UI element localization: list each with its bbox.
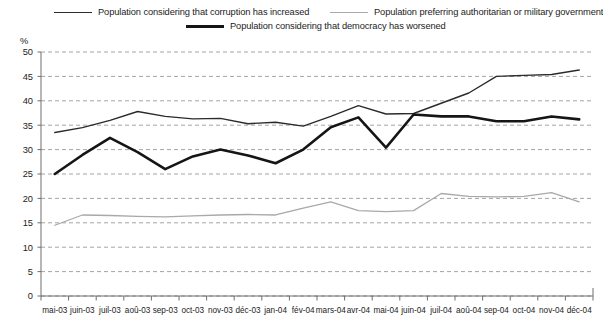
x-tick-label: juil-03 bbox=[98, 306, 121, 315]
y-tick-label: 20 bbox=[23, 194, 33, 204]
series-line-democracy bbox=[55, 114, 579, 174]
x-tick-label: mai-03 bbox=[42, 306, 67, 315]
x-tick-label: mai-04 bbox=[373, 306, 398, 315]
x-tick-label: aoû-04 bbox=[456, 306, 482, 315]
x-tick-label: jan-04 bbox=[263, 306, 287, 315]
x-tick-label: sep-04 bbox=[484, 306, 509, 315]
x-tick-label: nov-04 bbox=[539, 306, 564, 315]
x-tick-label: juil-04 bbox=[429, 306, 452, 315]
y-tick-label: 40 bbox=[23, 96, 33, 106]
x-tick-label: oct-04 bbox=[513, 306, 536, 315]
x-tick-label: fév-04 bbox=[292, 306, 315, 315]
x-tick-label: déc-03 bbox=[235, 306, 260, 315]
x-axis-group bbox=[41, 288, 593, 301]
x-tick-label: oct-03 bbox=[181, 306, 204, 315]
y-tick-label: 45 bbox=[23, 72, 33, 82]
x-tick-label: sep-03 bbox=[153, 306, 178, 315]
series-line-authoritarian bbox=[55, 193, 579, 226]
x-tick-label: juin-04 bbox=[400, 306, 426, 315]
series-line-corruption bbox=[55, 70, 579, 132]
x-tick-label: avr-04 bbox=[347, 306, 371, 315]
y-axis-group bbox=[38, 52, 42, 296]
x-tick-label: juin-03 bbox=[69, 306, 95, 315]
y-tick-label: 35 bbox=[23, 121, 33, 131]
x-tick-label: déc-04 bbox=[567, 306, 592, 315]
x-tick-label: mars-04 bbox=[316, 306, 346, 315]
y-tick-label: 50 bbox=[23, 47, 33, 57]
y-tick-label: 5 bbox=[28, 267, 33, 277]
gridlines-group bbox=[41, 52, 593, 296]
y-tick-labels-group: 05101520253035404550 bbox=[23, 47, 33, 301]
x-tick-label: aoû-03 bbox=[125, 306, 151, 315]
x-tick-label: nov-03 bbox=[208, 306, 233, 315]
y-tick-label: 10 bbox=[23, 243, 33, 253]
x-tick-labels-group: mai-03juin-03juil-03aoû-03sep-03oct-03no… bbox=[42, 306, 592, 315]
y-tick-label: 25 bbox=[23, 169, 33, 179]
y-tick-label: 0 bbox=[28, 291, 33, 301]
y-tick-label: 15 bbox=[23, 218, 33, 228]
series-group bbox=[55, 70, 579, 225]
y-tick-label: 30 bbox=[23, 145, 33, 155]
